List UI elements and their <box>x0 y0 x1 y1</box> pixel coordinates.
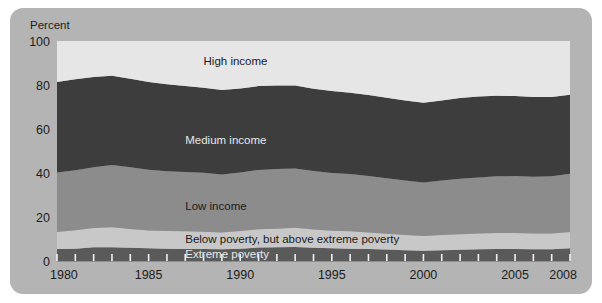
series-label-below: Below poverty, but above extreme poverty <box>185 233 399 245</box>
y-axis-tick-label: 60 <box>36 123 50 137</box>
x-axis-tick-label: 2005 <box>501 268 529 282</box>
y-axis-tick-label: 80 <box>36 79 50 93</box>
y-axis-tick-label: 100 <box>29 35 50 49</box>
chart-figure: 020406080100 198019851990199520002005200… <box>0 0 602 303</box>
series-label-low: Low income <box>185 200 246 212</box>
area-series-group <box>57 41 570 261</box>
y-axis-tick-label: 20 <box>36 211 50 225</box>
series-label-extreme: Extreme poverty <box>185 248 269 260</box>
y-axis-tick-label: 0 <box>43 255 50 269</box>
x-axis-tick-label: 2008 <box>549 268 577 282</box>
x-axis-tick-label: 2000 <box>410 268 438 282</box>
stacked-area-chart: 020406080100 198019851990199520002005200… <box>0 0 602 303</box>
y-axis-title: Percent <box>30 19 70 31</box>
y-axis-tick-label: 40 <box>36 167 50 181</box>
x-axis-tick-label: 1985 <box>135 268 163 282</box>
x-axis-tick-label: 1980 <box>50 268 78 282</box>
y-axis-labels-group: 020406080100 <box>29 35 50 269</box>
x-axis-labels-group: 1980198519901995200020052008 <box>50 268 577 282</box>
series-label-medium: Medium income <box>185 134 266 146</box>
x-axis-tick-label: 1990 <box>226 268 254 282</box>
x-axis-tick-label: 1995 <box>318 268 346 282</box>
series-label-high: High income <box>204 55 268 67</box>
